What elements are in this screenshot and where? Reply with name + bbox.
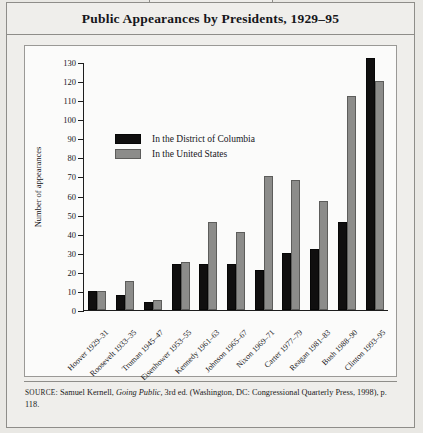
bar-dc xyxy=(227,264,236,310)
y-axis-tick xyxy=(78,273,84,274)
chart-canvas: Number of appearances 010203040506070809… xyxy=(24,45,397,377)
bar-dc xyxy=(255,270,264,310)
source-prefix: SOURCE xyxy=(25,388,56,397)
figure-title-bar: Public Appearances by Presidents, 1929–9… xyxy=(7,3,414,35)
y-axis-tick-label: 90 xyxy=(68,134,77,144)
y-axis-tick xyxy=(78,63,84,64)
source-divider xyxy=(24,381,397,382)
bar-us xyxy=(375,81,384,310)
bar-dc xyxy=(199,264,208,310)
y-axis-tick-label: 20 xyxy=(68,268,77,278)
bar-us xyxy=(125,281,134,310)
page-title: Public Appearances by Presidents, 1929–9… xyxy=(82,11,339,27)
bar-dc xyxy=(116,295,125,310)
y-axis-tick-label: 60 xyxy=(68,192,77,202)
bar-group xyxy=(255,176,273,310)
bar-us xyxy=(181,262,190,310)
y-axis-tick xyxy=(78,235,84,236)
bar-us xyxy=(264,176,273,310)
bar-us xyxy=(319,201,328,310)
bar-us xyxy=(291,180,300,310)
bar-group xyxy=(116,281,134,310)
chart-legend: In the District of Columbia In the Unite… xyxy=(115,134,255,164)
bar-dc xyxy=(88,291,97,310)
y-axis-tick-label: 100 xyxy=(63,115,76,125)
y-axis-tick xyxy=(78,120,84,121)
bar-group xyxy=(227,232,245,310)
bar-group xyxy=(282,180,300,310)
bar-us xyxy=(236,232,245,310)
bar-group xyxy=(366,58,384,310)
y-axis-tick-label: 40 xyxy=(68,230,77,240)
y-axis-tick-label: 50 xyxy=(68,211,77,221)
bar-group xyxy=(199,222,217,310)
bar-dc xyxy=(144,302,153,310)
legend-swatch-dc-icon xyxy=(115,134,141,144)
bar-group xyxy=(310,201,328,310)
legend-item-us: In the United States xyxy=(115,149,255,159)
bar-group xyxy=(172,262,190,310)
legend-label-us: In the United States xyxy=(152,149,227,159)
bar-group xyxy=(338,96,356,310)
source-note: SOURCE: Samuel Kernell, Going Public, 3r… xyxy=(25,387,403,410)
bar-dc xyxy=(172,264,181,310)
source-title-italic: Going Public, xyxy=(116,388,163,397)
legend-label-dc: In the District of Columbia xyxy=(152,134,255,144)
y-axis-tick-label: 80 xyxy=(68,153,77,163)
y-axis-tick xyxy=(78,101,84,102)
y-axis-tick-label: 130 xyxy=(63,58,76,68)
y-axis-tick xyxy=(78,158,84,159)
bar-us xyxy=(347,96,356,310)
y-axis-tick xyxy=(78,82,84,83)
y-axis-tick-label: 70 xyxy=(68,172,77,182)
y-axis-tick xyxy=(78,216,84,217)
bar-dc xyxy=(282,253,291,310)
figure-frame: Public Appearances by Presidents, 1929–9… xyxy=(6,2,415,428)
bar-dc xyxy=(310,249,319,310)
y-axis-tick-label: 0 xyxy=(72,306,76,316)
bar-group xyxy=(144,300,162,310)
x-axis-tick-label: Eisenhower 1953–55 xyxy=(139,328,193,382)
figure-page: FIGURE 4-3 Public Appearances by Preside… xyxy=(0,0,423,433)
y-axis-tick xyxy=(78,254,84,255)
legend-item-dc: In the District of Columbia xyxy=(115,134,255,144)
bar-us xyxy=(153,300,162,310)
y-axis-tick xyxy=(78,311,84,312)
y-axis-tick xyxy=(78,197,84,198)
y-axis-tick xyxy=(78,177,84,178)
bar-dc xyxy=(338,222,347,310)
y-axis-title: Number of appearances xyxy=(33,146,43,227)
y-axis-tick-label: 10 xyxy=(68,287,77,297)
bar-us xyxy=(97,291,106,310)
y-axis-tick xyxy=(78,139,84,140)
y-axis-tick xyxy=(78,292,84,293)
legend-swatch-us-icon xyxy=(115,149,141,159)
bar-group xyxy=(88,291,106,310)
bar-us xyxy=(208,222,217,310)
bar-dc xyxy=(366,58,375,310)
plot-area: Number of appearances 010203040506070809… xyxy=(83,63,388,311)
y-axis-tick-label: 110 xyxy=(64,96,76,106)
y-axis-tick-label: 30 xyxy=(68,249,77,259)
source-text-before: : Samuel Kernell, xyxy=(56,388,116,397)
y-axis-tick-label: 120 xyxy=(63,77,76,87)
